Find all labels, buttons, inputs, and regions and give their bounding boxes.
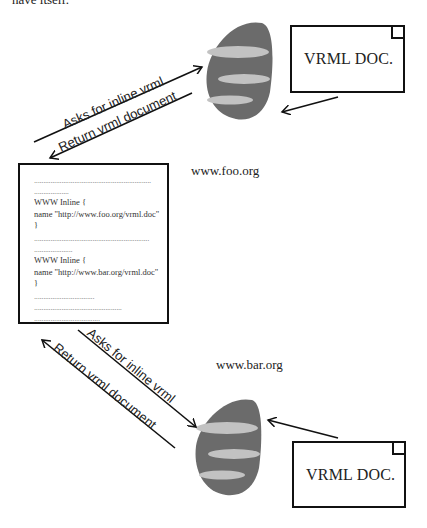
filler-line: ........................................… xyxy=(34,233,161,244)
inline-url-bar: name "http://www.bar.org/vrml.doc" xyxy=(34,267,161,278)
inline-url-foo: name "http://www.foo.org/vrml.doc" xyxy=(34,209,161,220)
inline-node-open: WWW Inline { xyxy=(34,255,161,266)
vrml-document-label: VRML DOC. xyxy=(294,466,404,484)
vrml-document-label: VRML DOC. xyxy=(292,50,403,68)
arrow-doc-to-foo-server xyxy=(282,97,338,112)
page-corner-icon xyxy=(391,25,405,39)
host-label-foo: www.foo.org xyxy=(191,163,259,179)
server-icon-bar xyxy=(196,399,262,495)
filler-line: .................................... xyxy=(34,313,161,324)
filler-line: ................... xyxy=(34,186,161,197)
inline-node-close: } xyxy=(34,220,161,231)
vrml-document-foo: VRML DOC. xyxy=(290,25,405,93)
filler-line: ..................... xyxy=(34,244,161,255)
filler-line: ........................................… xyxy=(34,302,161,313)
server-icon-foo xyxy=(206,22,272,119)
arrow-doc-to-bar-server xyxy=(268,420,338,438)
inline-node-close: } xyxy=(34,278,161,289)
vrml-document-bar: VRML DOC. xyxy=(292,441,406,508)
filler-line: ................................. xyxy=(34,291,161,302)
filler-line: ........................................… xyxy=(34,175,161,186)
page-corner-icon xyxy=(392,441,406,455)
inline-node-open: WWW Inline { xyxy=(34,197,161,208)
client-vrml-document: ........................................… xyxy=(18,163,169,324)
host-label-bar: www.bar.org xyxy=(216,357,283,373)
